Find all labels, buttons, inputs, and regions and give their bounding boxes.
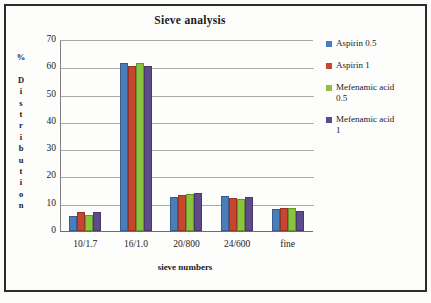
bar [77, 212, 85, 231]
legend-item: Mefenamic acid 1 [326, 114, 422, 135]
chart-screenshot: Sieve analysis % Distribution 7060504030… [0, 0, 431, 303]
bar-group [161, 40, 212, 231]
bar [272, 209, 280, 231]
legend-swatch [326, 85, 332, 91]
legend-label: Mefenamic acid 1 [336, 114, 394, 135]
x-axis-tick-label: 24/600 [211, 239, 263, 249]
legend-label: Aspirin 0.5 [336, 38, 377, 49]
bar [85, 215, 93, 231]
bar [245, 197, 253, 231]
legend-item: Aspirin 0.5 [326, 38, 422, 49]
y-axis-title-char: b [12, 143, 30, 154]
bar-group [212, 40, 263, 231]
x-axis-line [60, 231, 313, 232]
y-axis-tick-label: 50 [34, 90, 56, 99]
chart-canvas: Sieve analysis % Distribution 7060504030… [0, 0, 431, 303]
bar [93, 212, 101, 231]
y-axis-title-char: i [12, 132, 30, 143]
legend-swatch [326, 63, 332, 69]
bar [186, 194, 194, 231]
bar [128, 66, 136, 231]
y-axis-title-char: o [12, 189, 30, 200]
y-axis-tick-label: 60 [34, 62, 56, 71]
y-axis-title-char: s [12, 98, 30, 109]
legend-swatch [326, 117, 332, 123]
bar [221, 196, 229, 231]
bar-group [111, 40, 162, 231]
y-axis-tick-label: 10 [34, 199, 56, 208]
y-axis-title-char: t [12, 166, 30, 177]
y-axis-title-char: r [12, 120, 30, 131]
bar [120, 63, 128, 231]
y-axis-tick-label: 20 [34, 171, 56, 180]
bar [296, 211, 304, 231]
y-axis-title-char [12, 63, 30, 74]
chart-legend: Aspirin 0.5Aspirin 1Mefenamic acid 0.5Me… [326, 38, 422, 146]
bar [194, 193, 202, 231]
x-axis-tick-label: 20/800 [161, 239, 213, 249]
bar [69, 216, 77, 231]
x-axis-tick-label: fine [262, 239, 314, 249]
bar-group [60, 40, 111, 231]
y-axis-title-char: n [12, 200, 30, 211]
bar [237, 199, 245, 231]
legend-swatch [326, 41, 332, 47]
bar [136, 63, 144, 231]
bar [288, 208, 296, 231]
bar [144, 66, 152, 231]
x-axis-tick-label: 10/1.7 [59, 239, 111, 249]
chart-title: Sieve analysis [90, 14, 290, 26]
legend-label: Mefenamic acid 0.5 [336, 82, 394, 103]
bar [229, 198, 237, 231]
y-axis-title-char: D [12, 75, 30, 86]
bar [170, 197, 178, 231]
y-axis-tick-label: 70 [34, 35, 56, 44]
y-axis-tick-label: 0 [34, 226, 56, 235]
legend-label: Aspirin 1 [336, 60, 370, 71]
bar [178, 195, 186, 231]
y-axis-title-char: % [12, 52, 30, 63]
y-axis-title-char: i [12, 177, 30, 188]
y-axis-tick-label: 40 [34, 117, 56, 126]
y-axis-tick-labels: 706050403020100 [32, 0, 56, 303]
legend-item: Aspirin 1 [326, 60, 422, 71]
y-axis-title: % Distribution [12, 52, 30, 212]
bars-layer [60, 40, 313, 231]
y-axis-tick-label: 30 [34, 144, 56, 153]
legend-item: Mefenamic acid 0.5 [326, 82, 422, 103]
y-axis-title-char: t [12, 109, 30, 120]
bar-group [262, 40, 313, 231]
x-axis-title: sieve numbers [110, 262, 260, 272]
y-axis-title-char: i [12, 86, 30, 97]
bar [280, 208, 288, 231]
x-axis-tick-label: 16/1.0 [110, 239, 162, 249]
y-axis-title-char: u [12, 155, 30, 166]
